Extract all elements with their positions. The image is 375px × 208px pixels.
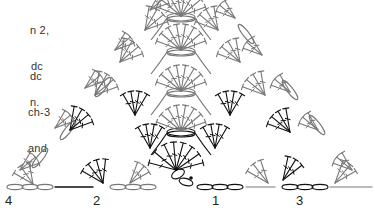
row-label-3: 3: [296, 193, 303, 208]
row-label-1: 1: [212, 193, 219, 208]
crochet-stitch-chart: [0, 0, 375, 208]
row-label-2: 2: [93, 193, 100, 208]
row-label-4: 4: [5, 193, 12, 208]
